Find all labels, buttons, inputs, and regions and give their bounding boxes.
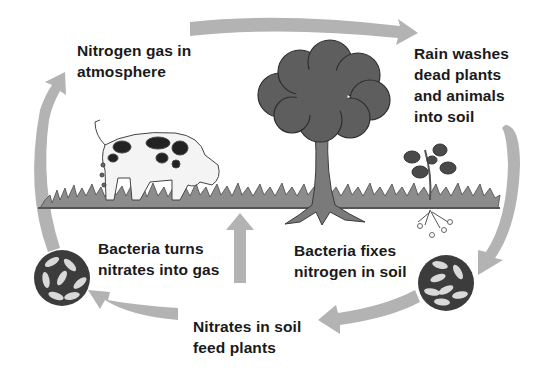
bacteria-left-icon bbox=[34, 250, 90, 306]
label-bacteria-fixes: Bacteria fixes nitrogen in soil bbox=[294, 240, 407, 282]
label-nitrogen-gas: Nitrogen gas in atmosphere bbox=[77, 40, 191, 82]
arrow-top-icon bbox=[190, 18, 418, 45]
label-nitrates-feed: Nitrates in soil feed plants bbox=[193, 316, 301, 358]
label-bacteria-turns: Bacteria turns nitrates into gas bbox=[98, 238, 219, 280]
cow-icon bbox=[95, 120, 219, 200]
arrow-up-icon bbox=[226, 213, 254, 283]
arrow-bottom-right-icon bbox=[318, 290, 420, 334]
label-rain-washes: Rain washes dead plants and animals into… bbox=[414, 43, 509, 127]
arrow-left-icon bbox=[34, 72, 66, 252]
arrow-bottom-left-icon bbox=[88, 290, 178, 320]
bacteria-right-icon bbox=[418, 255, 474, 311]
